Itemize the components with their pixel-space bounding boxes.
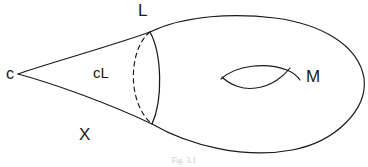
label-space-X: X <box>79 126 90 143</box>
label-manifold-M: M <box>306 68 320 85</box>
figure-container: c L cL X M Fig. 3.1 <box>0 0 368 167</box>
link-back-arc-dashed <box>133 32 152 124</box>
cone-lower-edge <box>18 74 152 124</box>
cone-upper-edge <box>18 32 150 74</box>
label-cone-point: c <box>6 66 14 82</box>
manifold-body-outline <box>150 16 364 153</box>
handle-upper-arc <box>221 66 300 80</box>
label-cone-cL: cL <box>93 65 109 80</box>
link-front-arc <box>150 32 160 124</box>
figure-caption: Fig. 3.1 <box>0 156 368 167</box>
label-link-L: L <box>138 2 147 19</box>
